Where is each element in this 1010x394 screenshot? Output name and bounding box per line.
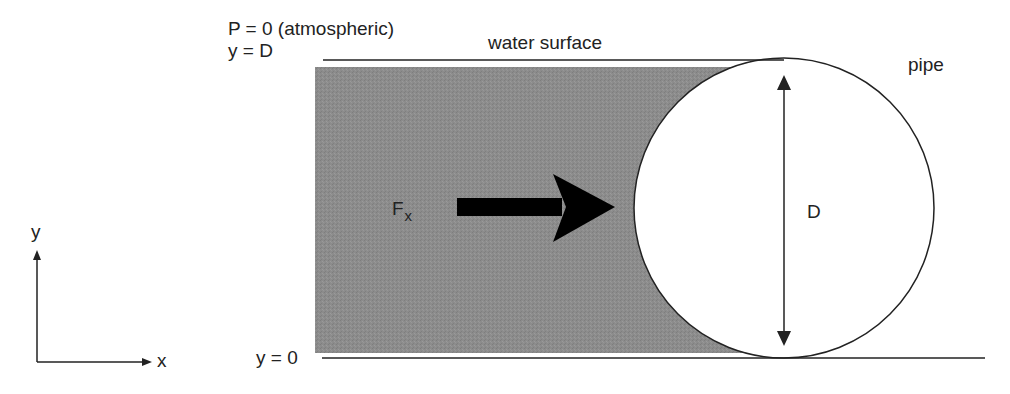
axes-icon [33, 250, 152, 366]
diagram-canvas [0, 0, 1010, 394]
force-label-subscript: x [405, 207, 413, 224]
force-label-main: F [392, 198, 404, 219]
pressure-label: P = 0 (atmospheric) [228, 19, 394, 38]
axis-x-label: x [157, 351, 167, 370]
water-surface-label: water surface [488, 33, 602, 52]
pipe-label: pipe [908, 55, 944, 74]
y-top-label: y = D [228, 41, 273, 60]
diameter-label: D [807, 202, 821, 221]
axis-y-label: y [31, 222, 41, 241]
force-label: Fx [392, 199, 412, 218]
y-bottom-label: y = 0 [256, 348, 298, 367]
